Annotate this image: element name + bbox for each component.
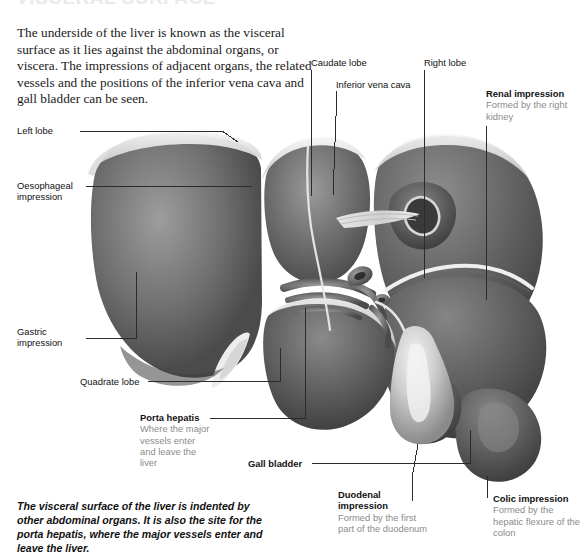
label-renal-impression-sub: Formed by the right kidney (486, 99, 576, 122)
label-gastric-line2: impression (17, 337, 62, 348)
label-left-lobe: Left lobe (17, 125, 53, 136)
label-oesophageal-line1: Oesophageal (17, 180, 73, 191)
label-colic-impression: Colic impression Formed by the hepatic f… (493, 493, 581, 538)
liver-visceral-surface-illustration (0, 0, 587, 555)
label-gall-bladder: Gall bladder (248, 458, 302, 469)
label-colic-impression-title: Colic impression (493, 493, 569, 504)
label-oesophageal-line2: impression (17, 191, 62, 202)
visceral-surface-figure: VISCERAL SURFACE The underside of the li… (0, 0, 587, 555)
label-colic-impression-sub: Formed by the hepatic flexure of the col… (493, 504, 581, 538)
label-duodenal-impression-sub: Formed by the first part of the duodenum (338, 512, 430, 535)
label-gastric-impression: Gastric impression (17, 326, 62, 349)
label-right-lobe: Right lobe (424, 57, 466, 68)
label-renal-impression: Renal impression Formed by the right kid… (486, 88, 576, 122)
label-porta-hepatis: Porta hepatis Where the major vessels en… (140, 412, 212, 468)
label-porta-hepatis-sub: Where the major vessels enter and leave … (140, 423, 212, 468)
figure-caption: The visceral surface of the liver is ind… (17, 499, 267, 555)
label-porta-hepatis-title: Porta hepatis (140, 412, 199, 423)
label-oesophageal-impression: Oesophageal impression (17, 180, 73, 203)
label-duodenal-line1: Duodenal (338, 489, 381, 500)
label-gastric-line1: Gastric (17, 326, 47, 337)
label-quadrate-lobe: Quadrate lobe (80, 376, 139, 387)
label-duodenal-impression: Duodenal impression Formed by the first … (338, 489, 430, 534)
label-renal-impression-title: Renal impression (486, 88, 564, 99)
label-inferior-vena-cava: Inferior vena cava (336, 79, 411, 90)
label-caudate-lobe: Caudate lobe (311, 57, 367, 68)
label-duodenal-line2: impression (338, 500, 388, 511)
